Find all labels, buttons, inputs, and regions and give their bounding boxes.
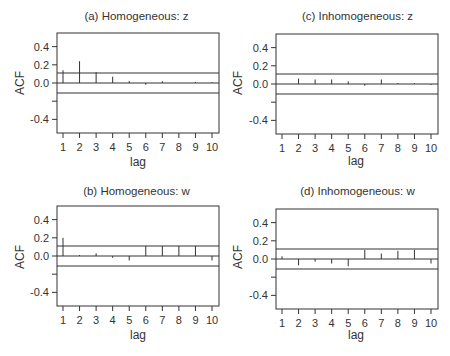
- x-tick-label: 3: [93, 141, 99, 153]
- y-tick-label: 0.4: [253, 217, 268, 229]
- x-tick-label: 7: [159, 314, 165, 326]
- x-tick-label: 6: [143, 141, 149, 153]
- y-tick-label: 0.2: [253, 235, 268, 247]
- y-tick-label: 0.0: [253, 78, 268, 90]
- y-tick-label: 0.0: [253, 253, 268, 265]
- x-tick-label: 9: [192, 314, 198, 326]
- y-tick-label: 0.4: [34, 214, 49, 226]
- x-tick-label: 2: [295, 142, 301, 154]
- x-tick-label: 3: [312, 317, 318, 329]
- x-tick-label: 9: [411, 317, 417, 329]
- x-tick-label: 6: [143, 314, 149, 326]
- y-tick-label: 0.2: [253, 60, 268, 72]
- x-tick-label: 4: [110, 141, 116, 153]
- y-tick-label: -0.4: [30, 113, 49, 125]
- x-axis-label: lag: [336, 328, 376, 342]
- x-tick-label: 10: [206, 141, 218, 153]
- x-tick-label: 4: [329, 142, 335, 154]
- x-tick-label: 10: [425, 317, 437, 329]
- x-axis-label: lag: [118, 328, 158, 342]
- x-tick-label: 3: [312, 142, 318, 154]
- y-tick-label: 0.0: [34, 250, 49, 262]
- x-tick-label: 1: [60, 141, 66, 153]
- acf-plot: 0.40.20.0-0.412345678910: [0, 0, 225, 178]
- x-tick-label: 5: [126, 314, 132, 326]
- x-tick-label: 4: [110, 314, 116, 326]
- acf-plot: 0.40.20.0-0.412345678910: [0, 178, 225, 356]
- panel-a: (a) Homogeneous: z ACF 0.40.20.0-0.41234…: [0, 0, 225, 178]
- panel-c: (c) Inhomogeneous: z ACF 0.40.20.0-0.412…: [225, 0, 450, 178]
- x-tick-label: 1: [60, 314, 66, 326]
- y-tick-label: 0.0: [34, 77, 49, 89]
- x-tick-label: 9: [192, 141, 198, 153]
- x-tick-label: 1: [279, 142, 285, 154]
- y-tick-label: 0.4: [253, 42, 268, 54]
- y-tick-label: 0.2: [34, 232, 49, 244]
- x-tick-label: 2: [76, 314, 82, 326]
- x-axis-label: lag: [336, 154, 376, 168]
- panel-b: (b) Homogeneous: w ACF 0.40.20.0-0.41234…: [0, 178, 225, 356]
- x-tick-label: 8: [176, 141, 182, 153]
- x-tick-label: 8: [176, 314, 182, 326]
- y-tick-label: 0.4: [34, 41, 49, 53]
- x-tick-label: 1: [279, 317, 285, 329]
- x-tick-label: 9: [411, 142, 417, 154]
- y-tick-label: -0.4: [249, 289, 268, 301]
- x-tick-label: 3: [93, 314, 99, 326]
- x-tick-label: 5: [126, 141, 132, 153]
- x-tick-label: 8: [395, 317, 401, 329]
- x-tick-label: 10: [206, 314, 218, 326]
- x-tick-label: 10: [425, 142, 437, 154]
- acf-plot: 0.40.20.0-0.412345678910: [225, 0, 450, 178]
- panel-d: (d) Inhomogeneous: w ACF 0.40.20.0-0.412…: [225, 178, 450, 356]
- x-tick-label: 8: [395, 142, 401, 154]
- x-tick-label: 5: [345, 142, 351, 154]
- y-tick-label: -0.4: [249, 114, 268, 126]
- y-tick-label: -0.4: [30, 286, 49, 298]
- x-tick-label: 7: [378, 317, 384, 329]
- x-tick-label: 7: [159, 141, 165, 153]
- x-tick-label: 6: [362, 142, 368, 154]
- x-axis-label: lag: [118, 155, 158, 169]
- x-tick-label: 4: [329, 317, 335, 329]
- x-tick-label: 7: [378, 142, 384, 154]
- x-tick-label: 2: [295, 317, 301, 329]
- x-tick-label: 2: [76, 141, 82, 153]
- y-tick-label: 0.2: [34, 59, 49, 71]
